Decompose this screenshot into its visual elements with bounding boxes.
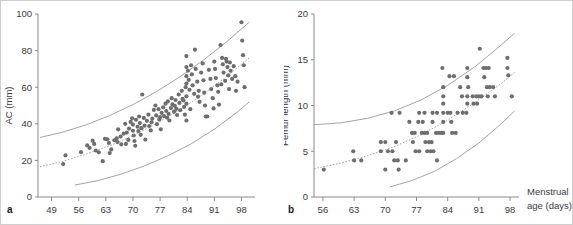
data-point — [475, 102, 479, 106]
data-point — [416, 120, 420, 124]
data-point — [217, 102, 221, 106]
data-point — [124, 142, 128, 146]
data-point — [235, 80, 239, 84]
data-point — [479, 94, 483, 98]
data-point — [63, 153, 67, 157]
data-point — [131, 129, 135, 133]
data-point — [154, 113, 158, 117]
data-point — [196, 95, 200, 99]
x-tick-label: 98 — [236, 204, 247, 215]
data-point — [441, 102, 445, 106]
data-point — [173, 104, 177, 108]
data-point — [159, 127, 163, 131]
data-point — [493, 94, 497, 98]
data-point — [109, 147, 113, 151]
data-point — [134, 118, 138, 122]
data-point — [482, 75, 486, 79]
data-point — [184, 102, 188, 106]
data-point — [221, 62, 225, 66]
data-point — [359, 158, 363, 162]
data-point — [150, 117, 154, 121]
data-point — [118, 135, 122, 139]
data-point — [383, 140, 387, 144]
data-point — [233, 74, 237, 78]
data-point — [421, 120, 425, 124]
x-axis-title-line2: age (days) — [527, 200, 572, 211]
data-point — [138, 121, 142, 125]
data-point — [455, 111, 459, 115]
data-point — [471, 102, 475, 106]
data-point — [166, 112, 170, 116]
data-point — [466, 85, 470, 89]
data-point — [145, 119, 149, 123]
data-point — [397, 111, 401, 115]
x-tick-label: 63 — [101, 204, 112, 215]
x-tick-label: 84 — [182, 204, 193, 215]
data-point — [189, 63, 193, 67]
data-point — [197, 100, 201, 104]
data-point — [205, 114, 209, 118]
data-point — [452, 74, 456, 78]
data-point — [193, 48, 197, 52]
data-point — [149, 120, 153, 124]
data-point — [454, 131, 458, 135]
data-point — [487, 66, 491, 70]
data-point — [223, 79, 227, 83]
data-point — [184, 94, 188, 98]
data-point — [92, 142, 96, 146]
data-point — [352, 158, 356, 162]
data-point — [447, 74, 451, 78]
data-point — [441, 111, 445, 115]
data-point — [211, 96, 215, 100]
data-point — [386, 149, 390, 153]
figure-container: 0204060801004956637077849198AC (mm)a 051… — [0, 0, 573, 225]
data-point — [184, 65, 188, 69]
data-point — [136, 129, 140, 133]
data-point — [322, 167, 326, 171]
data-point — [241, 53, 245, 57]
reference-curve-upper — [40, 22, 249, 137]
data-point — [448, 111, 452, 115]
reference-curve-mean — [40, 58, 249, 167]
data-point — [491, 85, 495, 89]
reference-curve-mean — [314, 73, 515, 169]
x-tick-label: 91 — [474, 204, 485, 215]
data-point — [465, 94, 469, 98]
data-point — [214, 76, 218, 80]
axis-lines — [38, 14, 255, 197]
data-point — [506, 73, 510, 77]
data-point — [175, 113, 179, 117]
data-point — [173, 98, 177, 102]
data-point — [131, 122, 135, 126]
data-point — [140, 92, 144, 96]
panel-b-femur-length: 0510152056637077849198Femur length (mm)b… — [284, 1, 573, 225]
data-point — [132, 133, 136, 137]
data-point — [218, 43, 222, 47]
data-point — [184, 81, 188, 85]
data-point-group — [322, 47, 514, 172]
data-point — [142, 116, 146, 120]
data-point — [219, 82, 223, 86]
data-point — [202, 91, 206, 95]
data-point — [351, 149, 355, 153]
data-point — [61, 162, 65, 166]
data-point — [505, 56, 509, 60]
data-point — [240, 38, 244, 42]
data-point — [199, 70, 203, 74]
data-point — [190, 72, 194, 76]
data-point — [115, 140, 119, 144]
panel-a-abdominal-circumference: 0204060801004956637077849198AC (mm)a — [1, 1, 291, 225]
y-tick-label: 15 — [297, 54, 308, 65]
data-point — [152, 108, 156, 112]
data-point — [417, 111, 421, 115]
data-point — [435, 111, 439, 115]
data-point — [169, 106, 173, 110]
data-point — [166, 99, 170, 103]
data-point — [184, 118, 188, 122]
data-point — [449, 120, 453, 124]
data-point — [201, 61, 205, 65]
data-point — [116, 127, 120, 131]
data-point — [153, 103, 157, 107]
panel-b-plot: 0510152056637077849198Femur length (mm)b… — [284, 1, 573, 225]
x-tick-label: 98 — [505, 204, 516, 215]
